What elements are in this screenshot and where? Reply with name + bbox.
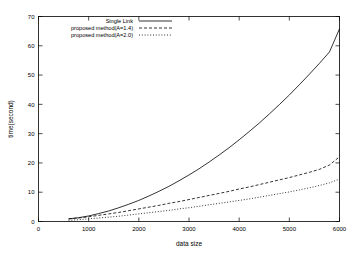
y-tick-label: 20 [28, 160, 35, 166]
legend-label-0: Single Link [106, 18, 134, 24]
y-axis-title: time(second) [7, 100, 15, 138]
y-tick-label: 70 [28, 14, 35, 20]
y-tick-label: 30 [28, 131, 35, 137]
x-axis-title: data size [176, 240, 202, 247]
y-tick-label: 40 [28, 102, 35, 108]
x-tick-label: 3000 [182, 226, 196, 232]
chart-figure: 010203040506070 010002000300040005000600… [0, 0, 360, 255]
x-tick-label: 4000 [232, 226, 246, 232]
x-tick-label: 5000 [283, 226, 297, 232]
legend-label-2: proposed method(A=2.0) [71, 32, 133, 38]
x-tick-label: 1000 [82, 226, 96, 232]
x-tick-label: 6000 [333, 226, 347, 232]
x-tick-label: 2000 [132, 226, 146, 232]
y-tick-label: 50 [28, 72, 35, 78]
chart-background [0, 0, 360, 255]
legend-label-1: proposed method(A=1.4) [71, 25, 133, 31]
line-chart: 010203040506070 010002000300040005000600… [0, 0, 360, 255]
y-tick-label: 60 [28, 43, 35, 49]
y-tick-label: 10 [28, 189, 35, 195]
